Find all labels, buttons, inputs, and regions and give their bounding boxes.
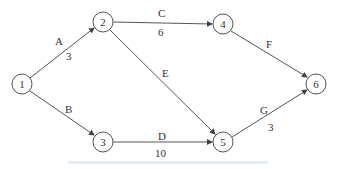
edge-g-duration: 3: [268, 121, 274, 133]
edge-b: [30, 91, 94, 135]
caption-fragment: [68, 161, 268, 164]
node-5-label: 5: [220, 136, 226, 148]
node-4-label: 4: [220, 18, 226, 30]
node-1: 1: [12, 74, 32, 94]
node-5: 5: [213, 132, 233, 152]
network-diagram: A 3 B C 6 D 10 E F G 3 1 2 3 4 5 6: [0, 0, 337, 169]
node-3-label: 3: [100, 136, 106, 148]
edge-e-activity: E: [162, 67, 169, 79]
edge-a-duration: 3: [66, 50, 72, 62]
node-6-label: 6: [313, 78, 319, 90]
node-6: 6: [306, 74, 326, 94]
edge-a-activity: A: [55, 35, 63, 47]
edge-e: [110, 30, 215, 134]
node-1-label: 1: [19, 78, 25, 90]
node-4: 4: [213, 14, 233, 34]
node-3: 3: [93, 132, 113, 152]
edge-f-activity: F: [266, 38, 272, 50]
edge-c-activity: C: [158, 7, 165, 19]
edge-d-activity: D: [158, 130, 166, 142]
node-2-label: 2: [100, 16, 106, 28]
edge-b-activity: B: [65, 103, 72, 115]
edge-c: [113, 22, 212, 24]
edge-d-duration: 10: [155, 147, 167, 159]
edge-c-duration: 6: [158, 26, 164, 38]
edge-g-activity: G: [260, 104, 268, 116]
node-2: 2: [93, 12, 113, 32]
